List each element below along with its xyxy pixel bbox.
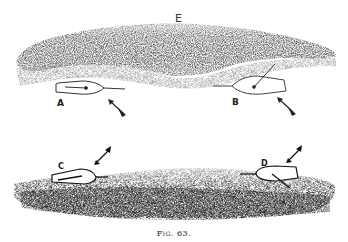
figure-caption: Fig. 63. [0,229,348,238]
shore-label-top: Shore [203,33,227,42]
shore-label-bottom: Shore [137,214,166,224]
boat-label-a: A [57,99,64,108]
wind-arrow-a [108,99,126,117]
top-shore-landmass [16,23,336,88]
illustration [0,0,348,242]
wind-arrow-b [277,97,296,116]
boat-label-d: D [261,160,268,168]
boat-label-c: C [58,163,64,171]
wind-arrow-c [94,146,111,165]
wind-arrow-d [286,145,302,163]
region-label-e: E [175,13,182,24]
boat-a [56,81,125,94]
boat-label-b: B [232,98,239,107]
figure-63: E Shore A B C D Shore Fig. 63. [0,0,348,242]
